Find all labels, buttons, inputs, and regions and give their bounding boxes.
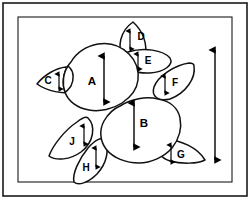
region-label-F: F — [172, 77, 178, 88]
region-label-B: B — [140, 117, 148, 129]
region-label-E: E — [145, 55, 152, 66]
lobe-diagram-canvas: A B C D E F G H J — [0, 0, 250, 199]
region-label-J: J — [69, 136, 75, 147]
lobe-A — [63, 43, 138, 110]
region-label-H: H — [82, 162, 89, 173]
region-label-A: A — [88, 75, 96, 87]
figure-root: A B C D E F G H J — [0, 0, 250, 199]
region-label-D: D — [137, 31, 144, 42]
region-label-G: G — [177, 149, 185, 160]
region-label-C: C — [44, 75, 51, 86]
